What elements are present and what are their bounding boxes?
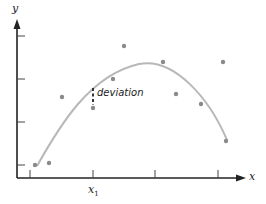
data-point <box>33 163 37 167</box>
data-point <box>122 44 126 48</box>
y-axis-arrow-icon <box>14 19 21 29</box>
x-ticks <box>30 170 218 178</box>
data-point <box>199 102 203 106</box>
x-axis-label: x <box>249 170 255 183</box>
fitted-curve <box>37 63 227 166</box>
data-point <box>91 106 95 110</box>
data-point <box>111 77 115 81</box>
data-point <box>161 60 165 64</box>
regression-chart <box>0 0 266 204</box>
deviation-label: deviation <box>97 87 143 98</box>
x-axis-arrow-icon <box>236 175 246 182</box>
data-point <box>60 95 64 99</box>
data-point <box>47 161 51 165</box>
y-axis-label: y <box>12 2 18 15</box>
x1-subscript: 1 <box>94 190 98 198</box>
data-point <box>224 139 228 143</box>
x1-tick-label: x1 <box>88 183 99 198</box>
y-ticks <box>17 36 25 165</box>
data-points <box>33 44 228 167</box>
data-point <box>221 60 225 64</box>
data-point <box>174 92 178 96</box>
